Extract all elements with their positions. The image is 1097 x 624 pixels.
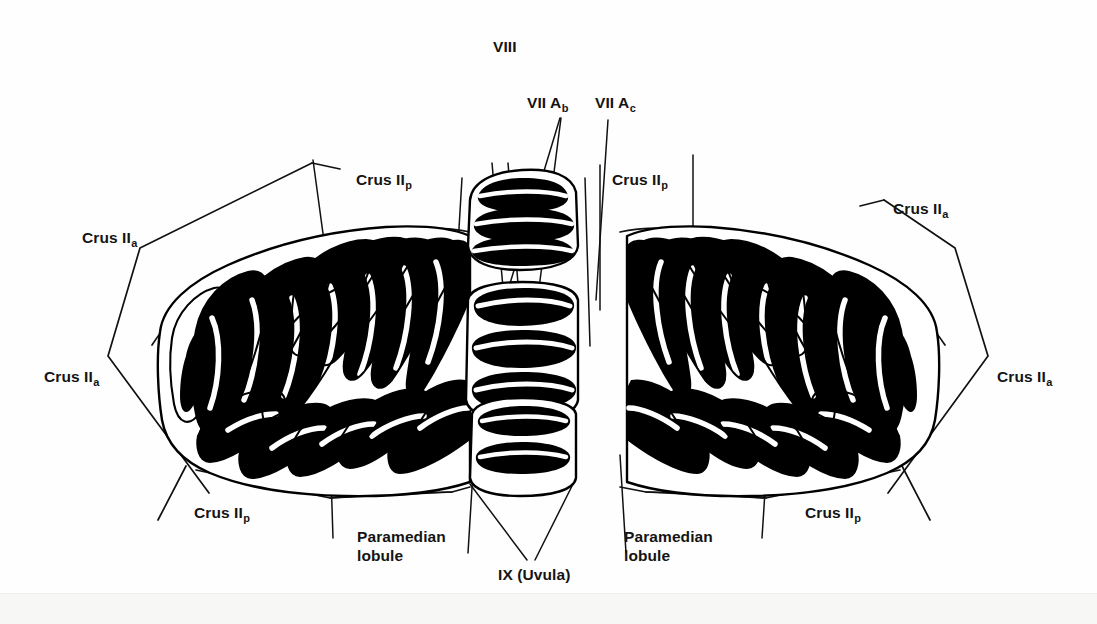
label-paramedian-lobule-left: Paramedianlobule — [357, 528, 446, 566]
bracket-left-bottom — [158, 466, 186, 520]
label-crus-iia-left-top: Crus IIa — [82, 229, 137, 248]
label-crus-iip-left-top: Crus IIp — [356, 171, 412, 190]
label-crus-iia-right-mid-subscript: a — [1046, 376, 1052, 388]
label-lobule-vii-a-b: VII Ab — [527, 94, 568, 113]
label-lobule-vii-a-c-text: VII A — [595, 94, 629, 111]
vermis — [466, 170, 578, 496]
label-crus-iia-left-mid: Crus IIa — [44, 368, 99, 387]
label-crus-iia-right-mid: Crus IIa — [997, 368, 1052, 387]
label-crus-iip-left-bottom-text: Crus II — [194, 504, 243, 521]
label-paramedian-lobule-right-text: Paramedian — [624, 528, 713, 545]
label-lobule-viii: VIII — [493, 38, 517, 57]
left-hemisphere — [158, 226, 470, 496]
label-crus-iia-left-mid-text: Crus II — [44, 368, 93, 385]
label-crus-iia-right-top-text: Crus II — [893, 200, 942, 217]
label-crus-iia-left-mid-subscript: a — [93, 376, 99, 388]
right-hemisphere — [627, 226, 939, 496]
label-paramedian-lobule-right: Paramedianlobule — [624, 528, 713, 566]
label-crus-iip-right-top-subscript: p — [661, 179, 668, 191]
label-crus-iip-left-bottom: Crus IIp — [194, 504, 250, 523]
label-crus-iia-right-top: Crus IIa — [893, 200, 948, 219]
figure-root: .lead { stroke:#111; stroke-width:1.7; f… — [0, 0, 1097, 624]
vermis-lower-ix-uvula — [470, 398, 576, 496]
label-paramedian-lobule-left-line2: lobule — [357, 547, 446, 566]
label-crus-iip-right-bottom-text: Crus II — [805, 504, 854, 521]
label-lobule-ix-uvula-text: IX (Uvula) — [498, 566, 570, 583]
label-crus-iip-right-bottom: Crus IIp — [805, 504, 861, 523]
label-lobule-vii-a-b-subscript: b — [562, 102, 569, 114]
label-crus-iip-right-top-text: Crus II — [612, 171, 661, 188]
label-crus-iia-right-mid-text: Crus II — [997, 368, 1046, 385]
pointer-vii-ac — [596, 120, 608, 300]
label-crus-iip-left-top-subscript: p — [405, 179, 412, 191]
label-crus-iip-left-top-text: Crus II — [356, 171, 405, 188]
label-crus-iip-left-bottom-subscript: p — [243, 512, 250, 524]
label-crus-iia-left-top-subscript: a — [131, 237, 137, 249]
label-lobule-vii-a-c-subscript: c — [630, 102, 636, 114]
label-lobule-vii-a-b-text: VII A — [527, 94, 561, 111]
label-lobule-viii-text: VIII — [493, 38, 517, 55]
pointer-vermis-right-edge — [585, 178, 590, 346]
bracket-right-upper-arm — [860, 200, 884, 206]
bracket-left-upper-arm — [312, 163, 340, 169]
label-crus-iia-right-top-subscript: a — [942, 208, 948, 220]
label-crus-iip-right-top: Crus IIp — [612, 171, 668, 190]
label-lobule-ix-uvula: IX (Uvula) — [498, 566, 570, 585]
label-paramedian-lobule-left-text: Paramedian — [357, 528, 446, 545]
bracket-right-bottom — [902, 466, 930, 520]
vermis-upper — [468, 170, 578, 270]
label-crus-iip-right-bottom-subscript: p — [854, 512, 861, 524]
label-lobule-vii-a-c: VII Ac — [595, 94, 636, 113]
label-paramedian-lobule-right-line2: lobule — [624, 547, 713, 566]
label-crus-iia-left-top-text: Crus II — [82, 229, 131, 246]
